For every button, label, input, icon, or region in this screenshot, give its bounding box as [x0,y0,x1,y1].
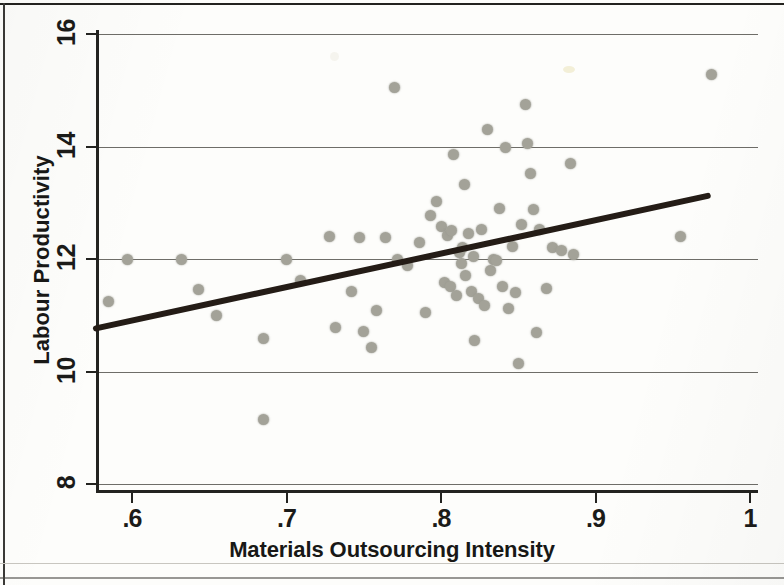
data-point [451,290,462,301]
data-point [193,284,204,295]
data-point [541,283,552,294]
data-point [371,305,382,316]
data-point [520,99,531,110]
data-point [556,245,567,256]
y-tick-label-12: 12 [52,236,81,280]
data-point [516,219,527,230]
data-point [468,251,479,262]
data-point [414,237,425,248]
x-tick-.7 [286,492,288,503]
data-point [531,327,542,338]
y-axis-title: Labour Productivity [29,110,55,410]
x-tick-label-.8: .8 [413,504,469,533]
scan-speck [563,66,575,73]
y-tick-label-16: 16 [52,11,81,55]
data-point [460,270,471,281]
x-tick-label-.6: .6 [104,504,160,533]
data-point [482,124,493,135]
data-point [358,326,369,337]
scan-speck-secondary [330,52,339,61]
data-point [500,142,511,153]
data-point [459,179,470,190]
data-point [494,203,505,214]
data-point [513,358,524,369]
data-point [448,149,459,160]
x-tick-.9 [595,492,597,503]
x-tick-.8 [440,492,442,503]
data-point [103,296,114,307]
data-point [528,204,539,215]
data-point [258,333,269,344]
x-axis-title: Materials Outsourcing Intensity [0,537,784,563]
data-point [675,231,686,242]
data-point [476,224,487,235]
data-point [525,168,536,179]
scanned-figure-page: 810121416 .6.7.8.91 Labour Productivity … [0,0,784,585]
data-point [258,414,269,425]
gridline-y-14 [98,147,758,148]
x-tick-1 [749,492,751,503]
data-point [479,300,490,311]
data-point [497,281,508,292]
data-point [211,310,222,321]
x-tick-label-.7: .7 [259,504,315,533]
data-point [420,307,431,318]
data-point [122,254,133,265]
data-point [503,303,514,314]
data-point [380,232,391,243]
data-point [565,158,576,169]
data-point [324,231,335,242]
x-tick-label-1: 1 [722,504,778,533]
x-tick-.6 [131,492,133,503]
data-point [176,254,187,265]
data-point [485,265,496,276]
y-tick-label-14: 14 [52,123,81,167]
data-point [425,210,436,221]
data-point [706,69,717,80]
data-point [491,255,502,266]
data-point [330,322,341,333]
x-axis-line [96,490,758,493]
gridline-y-8 [98,484,758,485]
data-point [456,258,467,269]
data-point [463,228,474,239]
gridline-y-16 [98,34,758,35]
x-tick-label-.9: .9 [568,504,624,533]
y-tick-label-8: 8 [52,461,81,505]
gridline-y-10 [98,372,758,373]
data-point [281,254,292,265]
data-point [354,232,365,243]
data-point [507,241,518,252]
data-point [431,196,442,207]
data-point [346,286,357,297]
y-tick-label-10: 10 [52,348,81,392]
data-point [446,225,457,236]
data-point [366,342,377,353]
scatter-plot: 810121416 .6.7.8.91 Labour Productivity … [0,0,784,585]
data-point [389,82,400,93]
data-point [469,335,480,346]
y-axis-line [96,30,99,492]
data-point [522,138,533,149]
data-point [510,287,521,298]
